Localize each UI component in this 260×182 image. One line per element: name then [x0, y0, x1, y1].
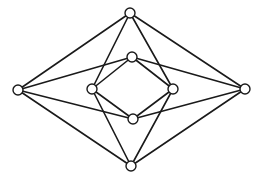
edge-B-IR: [131, 89, 173, 166]
edge-T-IR: [130, 13, 173, 89]
edge-R-IB: [133, 89, 245, 119]
node-inner-top: [127, 52, 137, 62]
node-outer-top: [125, 8, 135, 18]
node-outer-bottom: [126, 161, 136, 171]
edge-T-R: [130, 13, 245, 89]
node-inner-bottom: [128, 114, 138, 124]
edge-IB-IR: [133, 89, 173, 119]
edge-B-L: [18, 90, 131, 166]
node-inner-left: [87, 84, 97, 94]
graph-nodes: [13, 8, 250, 171]
graph-diagram: [0, 0, 260, 182]
edge-IR-IT: [132, 57, 173, 89]
edge-T-L: [18, 13, 130, 90]
edge-L-IB: [18, 90, 133, 119]
node-outer-right: [240, 84, 250, 94]
edge-IT-IL: [92, 57, 132, 89]
node-inner-right: [168, 84, 178, 94]
edge-L-IT: [18, 57, 132, 90]
edge-T-IL: [92, 13, 130, 89]
figure-caption-truncated: [0, 176, 260, 182]
edge-R-IT: [132, 57, 245, 89]
node-outer-left: [13, 85, 23, 95]
edge-B-R: [131, 89, 245, 166]
graph-edges: [18, 13, 245, 166]
edge-B-IL: [92, 89, 131, 166]
